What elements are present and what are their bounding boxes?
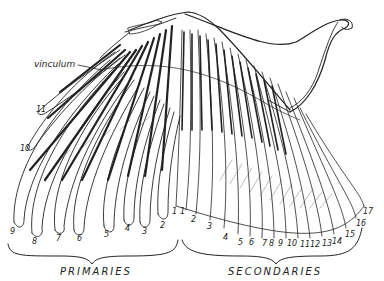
secondary-number: 7 (262, 240, 267, 248)
secondary-number: 9 (278, 240, 283, 248)
secondary-number: 15 (345, 231, 355, 239)
secondary-number: 2 (191, 216, 196, 224)
primary-number: 2 (160, 222, 165, 230)
secondary-number: 16 (356, 220, 366, 228)
secondary-number: 17 (363, 208, 373, 216)
secondary-number: 14 (332, 238, 342, 246)
secondaries-label: SECONDARIES (228, 266, 322, 277)
secondary-number: 5 (238, 239, 243, 247)
primary-number: 11 (36, 106, 46, 114)
secondary-number: 6 (249, 239, 254, 247)
primary-number: 5 (104, 231, 109, 239)
secondary-number: 3 (207, 223, 212, 231)
secondary-number: 1 (180, 208, 185, 216)
primary-number: 6 (77, 235, 82, 243)
primary-feathers (14, 50, 180, 237)
secondary-number: 4 (223, 234, 228, 242)
primary-number: 9 (10, 228, 15, 236)
primary-number: 3 (142, 228, 147, 236)
secondary-number: 11 (300, 241, 310, 249)
secondary-number: 12 (310, 241, 320, 249)
secondary-number: 10 (287, 240, 297, 248)
primary-number: 4 (125, 225, 130, 233)
secondary-shafts (182, 32, 286, 154)
primary-number: 10 (20, 145, 30, 153)
primary-number: 8 (32, 238, 37, 246)
primary-number: 1 (172, 208, 177, 216)
secondary-number: 8 (269, 240, 274, 248)
secondary-number: 13 (322, 240, 332, 248)
secondary-feathers (176, 30, 364, 238)
primaries-label: PRIMARIES (60, 266, 132, 277)
vinculum-label: vinculum (34, 60, 75, 69)
feather-hatching (60, 116, 332, 208)
primary-number: 7 (56, 235, 61, 243)
